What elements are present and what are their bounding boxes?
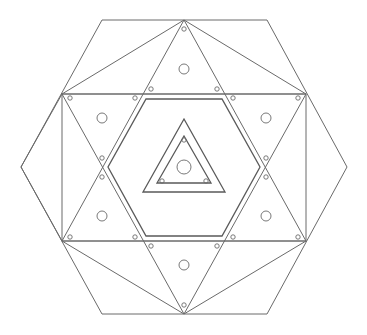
large-circles bbox=[97, 64, 271, 270]
center-triangle-inner bbox=[157, 136, 211, 183]
side-diagonals bbox=[21, 94, 62, 241]
hexagram-down-triangle bbox=[62, 94, 306, 314]
center-triangle-outer bbox=[143, 119, 225, 192]
diagram-canvas bbox=[0, 0, 367, 335]
inner-rectangle bbox=[62, 94, 306, 241]
hexagram-diagram bbox=[0, 0, 367, 335]
hexagram-up-triangle bbox=[62, 20, 306, 241]
